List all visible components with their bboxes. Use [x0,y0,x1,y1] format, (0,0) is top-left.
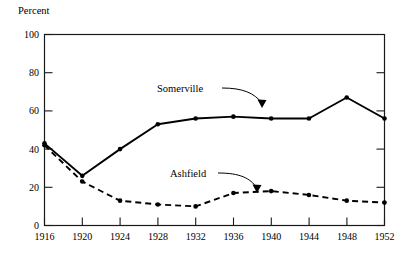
annotation-label-somerville: Somerville [157,83,203,94]
x-tick-label: 1944 [299,231,319,242]
plot-frame [45,35,385,226]
y-tick-label: 100 [24,29,39,40]
data-point [382,116,387,121]
data-point [269,189,274,194]
y-tick-label: 40 [29,144,39,155]
x-tick-label: 1936 [224,231,244,242]
data-point [344,95,349,100]
annotation-somerville: Somerville [157,83,267,108]
x-tick-label: 1920 [72,231,92,242]
data-point [231,114,236,119]
data-point [193,204,198,209]
x-tick-label: 1924 [110,231,130,242]
y-tick-label: 20 [29,182,39,193]
line-chart: Percent 0 20 40 60 80 100 [0,0,420,260]
series-line-ashfield [45,145,385,206]
x-tick-label: 1916 [35,231,55,242]
series-somerville [42,95,387,178]
data-point [231,191,236,196]
y-axis-ticks [45,35,385,226]
y-tick-label: 60 [29,105,39,116]
y-tick-label: 80 [29,67,39,78]
annotation-arrow-ashfield [218,173,257,188]
annotation-label-ashfield: Ashfield [170,168,207,179]
data-point [118,147,123,152]
series-line-somerville [45,98,385,176]
data-point [80,179,85,184]
series-ashfield [42,143,387,209]
data-point [382,200,387,205]
x-tick-label: 1928 [148,231,168,242]
x-tick-label: 1932 [186,231,206,242]
chart-container: Percent 0 20 40 60 80 100 [0,0,420,260]
annotation-ashfield: Ashfield [170,168,262,193]
x-axis-tick-labels: 1916 1920 1924 1928 1932 1936 1940 1944 … [35,231,395,242]
series-layer [42,95,387,208]
data-point [80,174,85,179]
x-tick-label: 1940 [261,231,281,242]
x-tick-label: 1952 [375,231,395,242]
y-axis-title: Percent [18,5,50,16]
data-point [307,116,312,121]
x-axis-ticks [45,218,385,226]
x-tick-label: 1948 [337,231,357,242]
y-axis-tick-labels: 0 20 40 60 80 100 [24,29,39,231]
data-point [269,116,274,121]
y-tick-label: 0 [34,220,39,231]
data-point [307,193,312,198]
annotation-arrowhead-somerville [258,100,267,109]
data-point [156,122,161,127]
data-point [344,198,349,203]
data-point [42,143,47,148]
data-point [193,116,198,121]
data-point [118,198,123,203]
data-point [156,202,161,207]
annotation-arrow-somerville [222,88,262,103]
